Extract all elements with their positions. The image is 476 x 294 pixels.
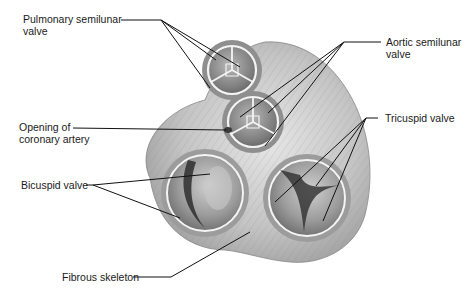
bicuspid-valve [161, 149, 249, 237]
label-pulmonary-semilunar-valve: Pulmonary semilunar valve [23, 13, 122, 37]
label-line: Bicuspid valve [21, 179, 88, 191]
label-line: Pulmonary semilunar [23, 13, 122, 25]
label-line: valve [386, 48, 461, 60]
label-opening-of-coronary-artery: Opening of coronary artery [19, 121, 90, 145]
label-line: Aortic semilunar [386, 36, 461, 48]
label-line: coronary artery [19, 133, 90, 145]
label-line: Fibrous skeleton [62, 271, 139, 283]
label-fibrous-skeleton: Fibrous skeleton [62, 271, 139, 283]
label-line: valve [23, 25, 122, 37]
label-aortic-semilunar-valve: Aortic semilunar valve [386, 36, 461, 60]
tricuspid-valve [263, 154, 351, 242]
label-line: Opening of [19, 121, 90, 133]
aortic-valve [222, 91, 284, 153]
label-bicuspid-valve: Bicuspid valve [21, 179, 88, 191]
heart-valves-diagram: Pulmonary semilunar valve Aortic semilun… [0, 0, 476, 294]
label-tricuspid-valve: Tricuspid valve [385, 112, 455, 124]
label-line: Tricuspid valve [385, 112, 455, 124]
